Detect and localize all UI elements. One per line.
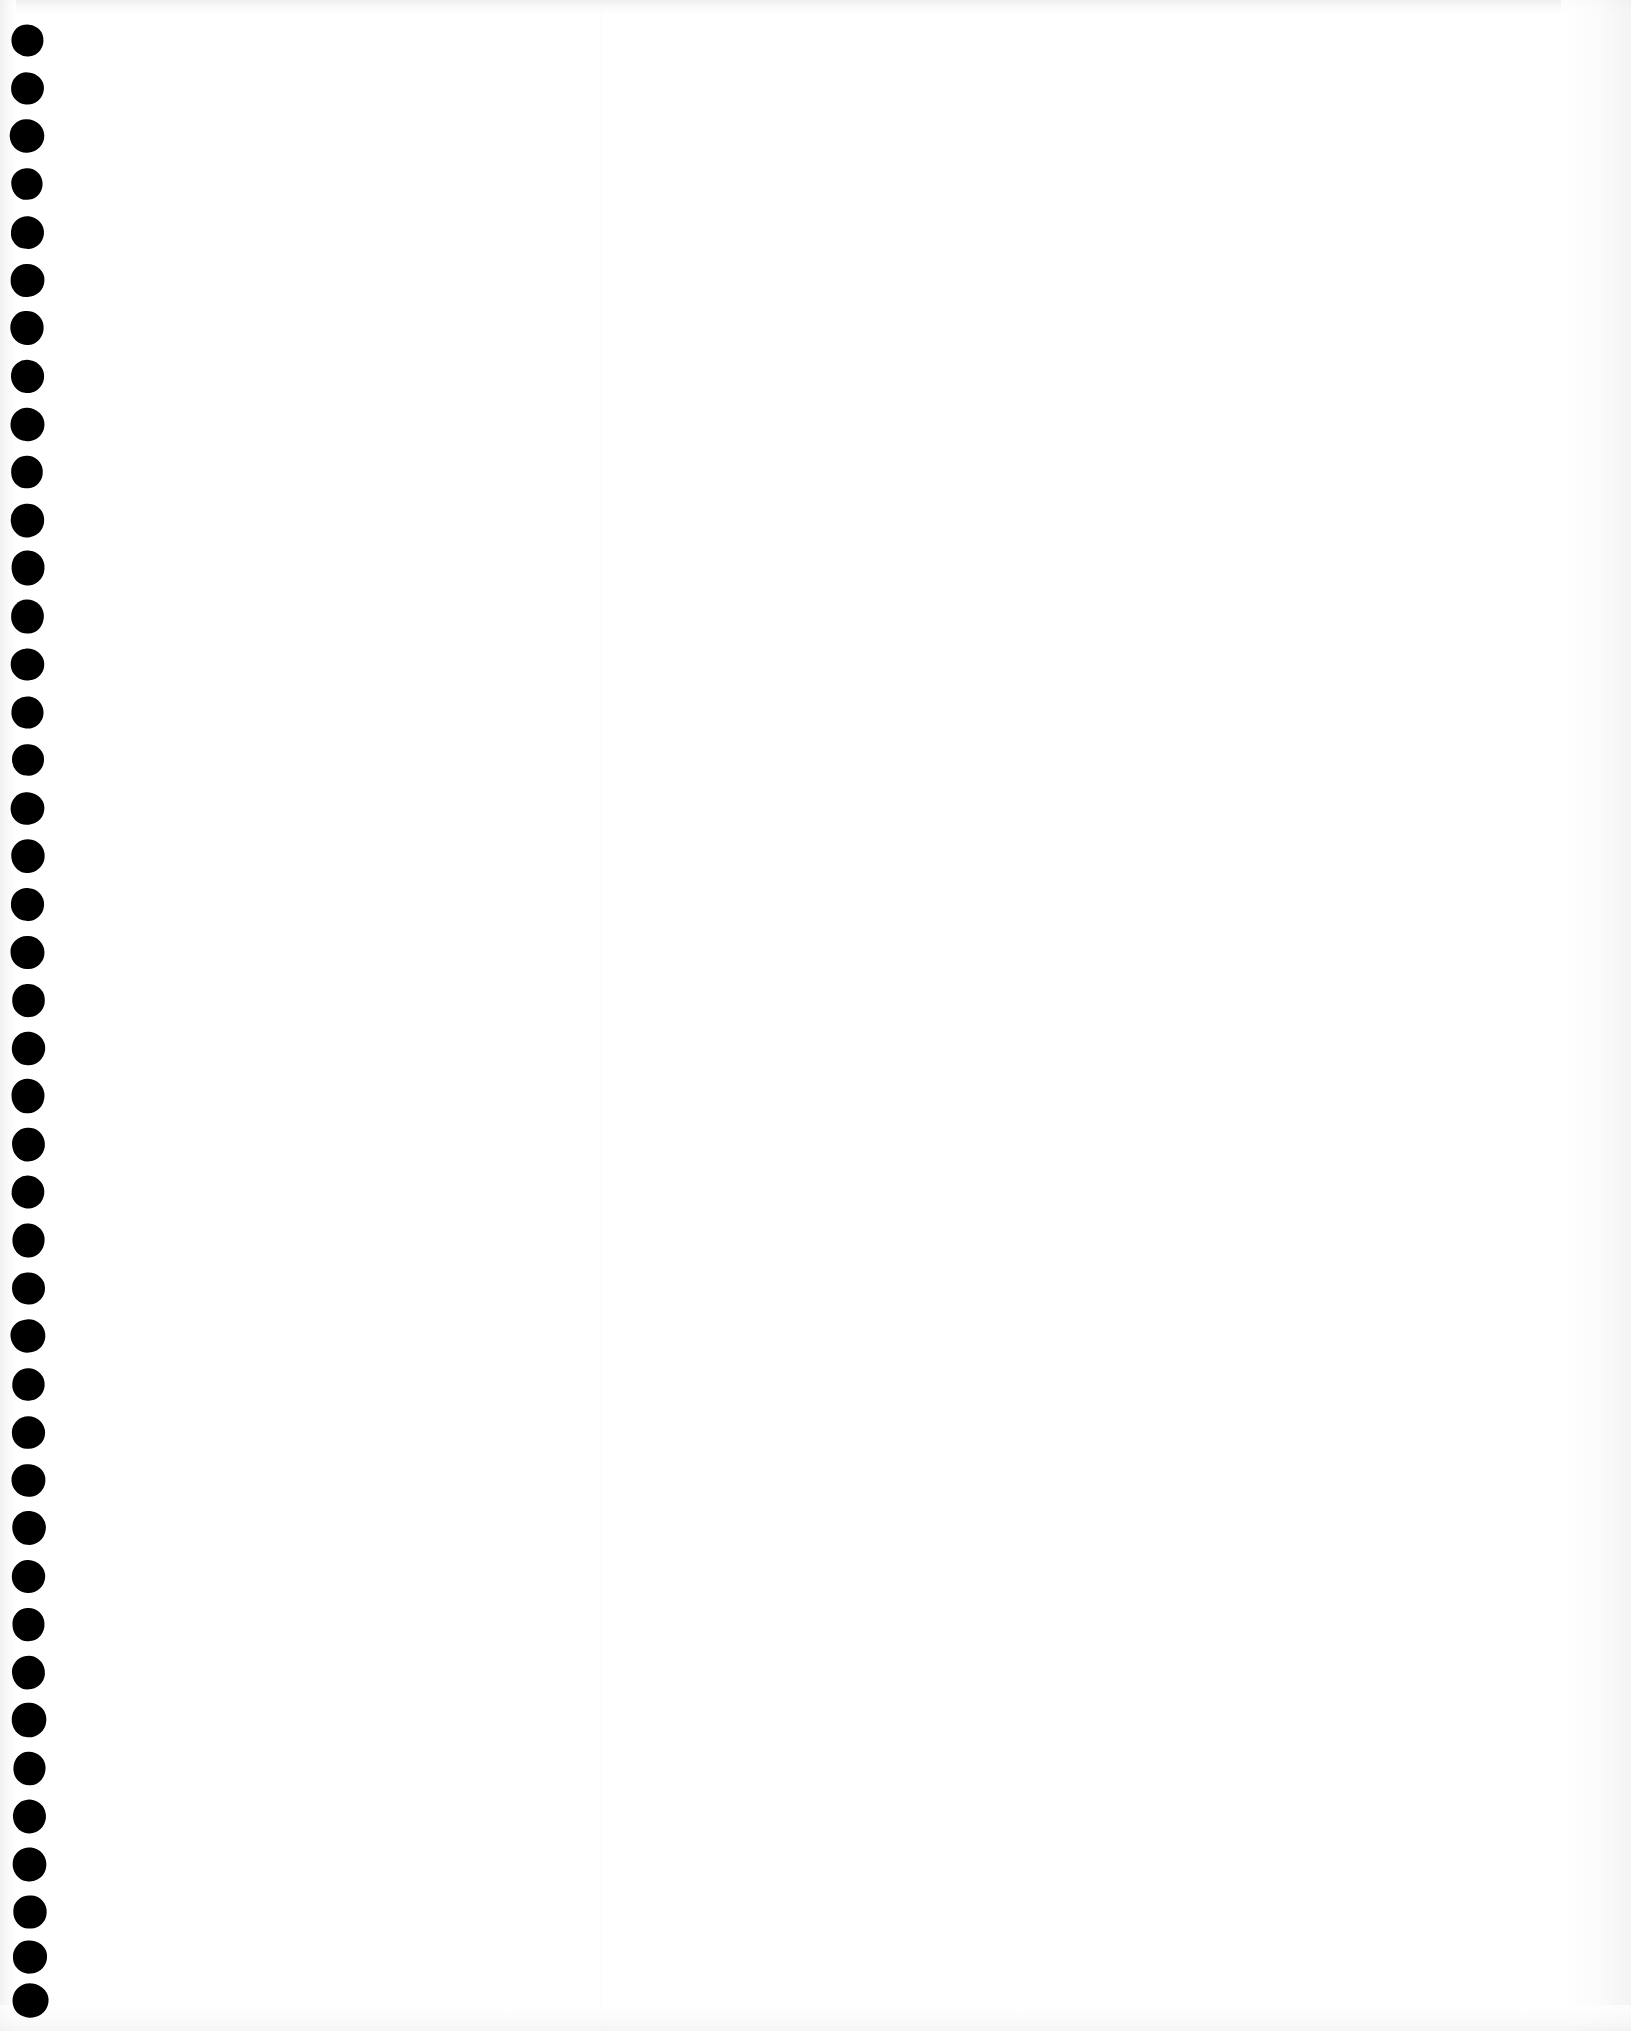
- paper-sheet: [0, 0, 1631, 2031]
- scanned-page-canvas: [0, 0, 1631, 2031]
